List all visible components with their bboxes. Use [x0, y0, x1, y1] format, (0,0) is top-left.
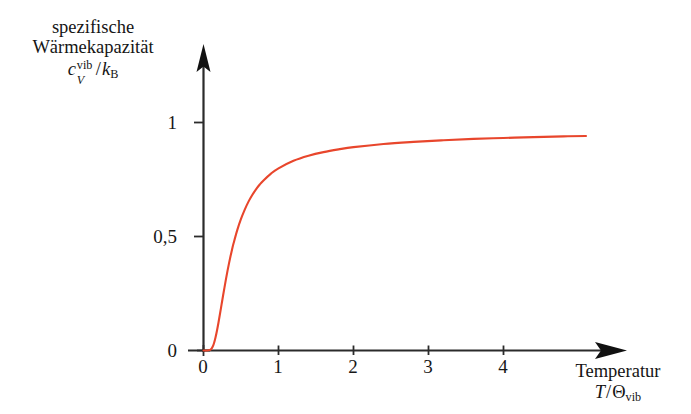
x-axis-title: Temperatur T/Θvib	[545, 362, 691, 404]
y-axis-slash: /	[95, 59, 102, 79]
x-tick-label-4: 4	[488, 356, 518, 378]
x-axis-title-math: T/Θvib	[545, 383, 691, 404]
y-tick-label-0-5: 0,5	[117, 226, 177, 248]
y-axis-symbol-k: k	[102, 59, 110, 79]
y-tick-label-0: 0	[117, 340, 177, 362]
x-axis-symbol-theta: Θ	[612, 382, 625, 402]
y-axis-subscript-B: B	[110, 67, 118, 81]
y-axis-subscript-V: V	[77, 74, 84, 87]
y-axis-title-line2: Wärmekapazität	[0, 38, 186, 58]
y-axis-title: spezifische Wärmekapazität cvibV/kB	[0, 18, 186, 81]
x-tick-label-1: 1	[263, 356, 293, 378]
x-axis-title-line1: Temperatur	[545, 362, 691, 382]
y-tick-marks	[194, 123, 210, 351]
figure-container: spezifische Wärmekapazität cvibV/kB Temp…	[0, 0, 691, 414]
x-axis-subscript-vib: vib	[626, 390, 642, 404]
y-tick-label-1: 1	[117, 112, 177, 134]
y-axis-symbol-c: c	[68, 59, 76, 79]
x-tick-label-0: 0	[188, 356, 218, 378]
y-axis-superscript-vib: vib	[77, 59, 93, 72]
x-tick-label-2: 2	[338, 356, 368, 378]
x-tick-label-3: 3	[413, 356, 443, 378]
x-axis-symbol-T: T	[595, 382, 605, 402]
y-axis-title-line1: spezifische	[0, 18, 186, 38]
heat-capacity-curve	[204, 136, 587, 351]
y-axis-title-math: cvibV/kB	[0, 60, 186, 81]
